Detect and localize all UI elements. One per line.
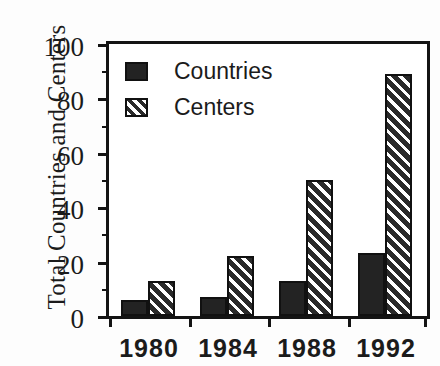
x-tick-1 — [189, 316, 192, 327]
legend-label-countries: Countries — [174, 58, 272, 85]
legend-swatch-solid-icon — [125, 62, 148, 81]
bar-centers-1980 — [148, 281, 175, 316]
bar-centers-1988 — [306, 180, 333, 316]
legend-item-countries: Countries — [125, 56, 272, 86]
y-minor-tick-30 — [102, 234, 109, 236]
y-tick-label-60: 60 — [57, 140, 84, 171]
y-minor-tick-50 — [102, 180, 109, 182]
y-minor-tick-70 — [102, 126, 109, 128]
bar-countries-1992 — [358, 253, 385, 316]
bar-centers-1992 — [385, 74, 412, 316]
x-axis-label-1988: 1988 — [277, 334, 337, 363]
x-axis-label-1992: 1992 — [356, 334, 416, 363]
legend-swatch-hatch-icon — [125, 98, 148, 117]
y-tick-40: 40 — [98, 207, 109, 210]
x-tick-2 — [268, 316, 271, 327]
y-tick-60: 60 — [98, 153, 109, 156]
bar-centers-1984 — [227, 256, 254, 316]
x-tick-3 — [348, 316, 351, 327]
legend-label-centers: Centers — [174, 94, 255, 121]
y-tick-20: 20 — [98, 262, 109, 265]
y-tick-label-100: 100 — [44, 32, 85, 63]
legend-item-centers: Centers — [125, 92, 272, 122]
bar-chart-figure: Total Countries and Centers 100 80 60 40… — [0, 0, 440, 366]
plot-area: 100 80 60 40 20 0 — [106, 41, 430, 319]
x-tick-left — [109, 316, 112, 327]
bar-countries-1984 — [200, 297, 227, 316]
y-tick-80: 80 — [98, 98, 109, 101]
legend: Countries Centers — [125, 56, 272, 128]
y-tick-0: 0 — [98, 316, 109, 319]
y-minor-tick-90 — [102, 71, 109, 73]
y-tick-label-0: 0 — [71, 304, 85, 335]
x-axis-label-1984: 1984 — [198, 334, 258, 363]
bar-countries-1980 — [121, 300, 148, 316]
y-minor-tick-10 — [102, 289, 109, 291]
bar-countries-1988 — [279, 281, 306, 316]
y-tick-100: 100 — [98, 44, 109, 47]
x-tick-right — [424, 316, 427, 327]
y-tick-label-80: 80 — [57, 86, 84, 117]
y-tick-label-40: 40 — [57, 195, 84, 226]
plot-inner: 100 80 60 40 20 0 — [109, 44, 427, 316]
x-axis-label-1980: 1980 — [119, 334, 179, 363]
y-tick-label-20: 20 — [57, 249, 84, 280]
